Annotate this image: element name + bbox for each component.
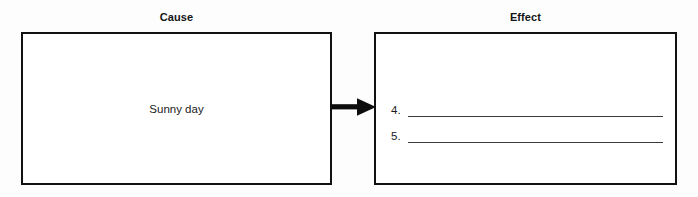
effect-column-heading: Effect (374, 11, 677, 23)
cause-column-heading: Cause (21, 11, 332, 23)
answer-line-number: 4. (391, 105, 406, 118)
answer-line-list: 4. 5. (391, 91, 663, 143)
effect-box: 4. 5. (374, 32, 677, 185)
cause-effect-diagram: Cause Effect Sunny day 4. 5. (0, 0, 698, 197)
answer-line-item[interactable]: 4. (391, 91, 663, 117)
right-arrow-icon (331, 96, 376, 118)
answer-line-blank[interactable] (408, 116, 663, 117)
answer-line-blank[interactable] (408, 142, 663, 143)
answer-line-number: 5. (391, 131, 406, 144)
cause-box: Sunny day (21, 32, 332, 185)
answer-line-item[interactable]: 5. (391, 117, 663, 143)
cause-text: Sunny day (23, 34, 330, 183)
